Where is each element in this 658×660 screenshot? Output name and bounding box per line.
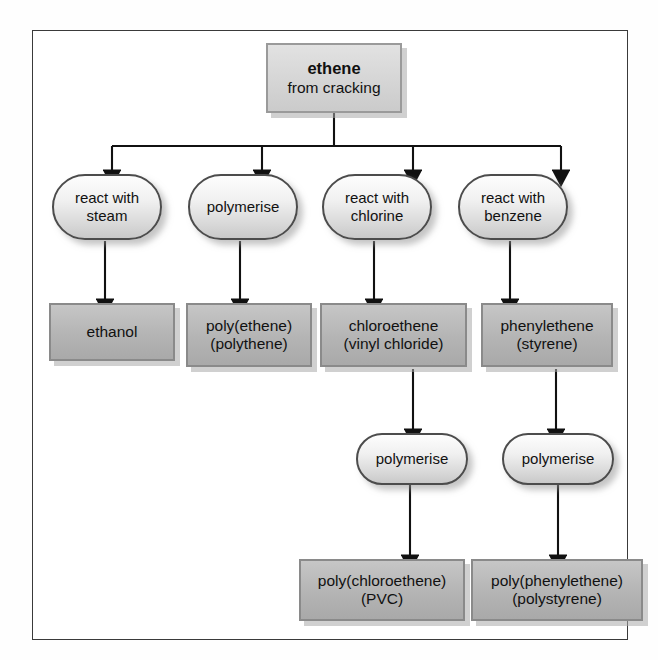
node-step-steam-line1: react with (75, 189, 139, 207)
node-product-phenylethene-line1: phenylethene (500, 317, 593, 335)
node-step-polymerise-1-line1: polymerise (207, 198, 280, 216)
node-polymer-pvc-line2: (PVC) (361, 590, 403, 608)
node-product-phenylethene-line2: (styrene) (516, 335, 577, 353)
node-polymer-polystyrene-line2: (polystyrene) (512, 590, 602, 608)
node-ethene-line1: ethene (307, 59, 360, 78)
node-product-ethanol[interactable]: ethanol (49, 303, 175, 361)
node-ethene-line2: from cracking (287, 79, 380, 97)
node-product-ethanol-line1: ethanol (87, 323, 138, 341)
node-product-phenylethene[interactable]: phenylethene (styrene) (481, 303, 613, 367)
node-product-chloroethene-line2: (vinyl chloride) (344, 335, 444, 353)
node-step-polymerise-2[interactable]: polymerise (356, 433, 468, 485)
node-product-polyethene-line1: poly(ethene) (206, 317, 292, 335)
node-step-chlorine-line1: react with (345, 189, 409, 207)
node-product-chloroethene[interactable]: chloroethene (vinyl chloride) (320, 303, 467, 367)
node-step-polymerise-2-line1: polymerise (376, 450, 449, 468)
node-step-benzene-line1: react with (481, 189, 545, 207)
node-polymer-polystyrene-line1: poly(phenylethene) (491, 572, 623, 590)
node-step-steam[interactable]: react with steam (52, 174, 162, 240)
node-polymer-polystyrene[interactable]: poly(phenylethene) (polystyrene) (471, 559, 643, 621)
node-step-polymerise-1[interactable]: polymerise (188, 174, 298, 240)
node-step-polymerise-3-line1: polymerise (522, 450, 595, 468)
node-product-polyethene[interactable]: poly(ethene) (polythene) (186, 303, 312, 367)
node-product-polyethene-line2: (polythene) (210, 335, 288, 353)
node-polymer-pvc-line1: poly(chloroethene) (318, 572, 446, 590)
node-step-benzene[interactable]: react with benzene (458, 174, 568, 240)
diagram-canvas: ethene from cracking react with steam po… (0, 0, 658, 660)
node-ethene[interactable]: ethene from cracking (266, 43, 402, 113)
node-product-chloroethene-line1: chloroethene (349, 317, 439, 335)
node-step-chlorine[interactable]: react with chlorine (322, 174, 432, 240)
node-step-benzene-line2: benzene (484, 207, 542, 225)
node-step-steam-line2: steam (87, 207, 128, 225)
node-step-polymerise-3[interactable]: polymerise (502, 433, 614, 485)
node-step-chlorine-line2: chlorine (351, 207, 404, 225)
node-polymer-pvc[interactable]: poly(chloroethene) (PVC) (299, 559, 465, 621)
